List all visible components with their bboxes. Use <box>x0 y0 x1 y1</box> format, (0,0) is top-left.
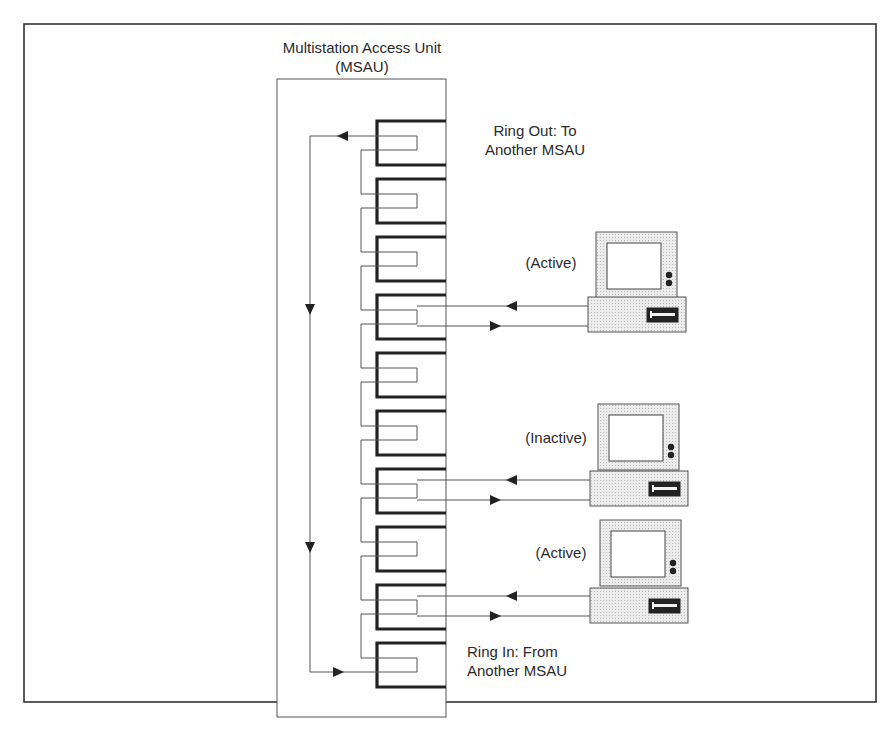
msau-title: Multistation Access Unit (MSAU) <box>262 38 462 76</box>
ring-in-line2: Another MSAU <box>467 661 607 680</box>
ring-in-label: Ring In: From Another MSAU <box>467 642 607 680</box>
ring-out-line1: Ring Out: To <box>470 121 600 140</box>
arrowhead-icon <box>490 611 501 621</box>
system-unit-icon <box>588 297 686 332</box>
workstation-1 <box>417 232 686 332</box>
station-3-status: (Active) <box>526 543 596 562</box>
system-unit-icon <box>590 588 688 623</box>
ring-out-line2: Another MSAU <box>470 140 600 159</box>
arrowhead-icon <box>506 591 517 601</box>
workstation-2 <box>417 404 688 506</box>
monitor-icon <box>598 404 679 470</box>
workstation-3 <box>417 520 688 623</box>
station-1-status: (Active) <box>516 253 586 272</box>
system-unit-icon <box>590 471 688 506</box>
arrowhead-icon <box>490 495 501 505</box>
ring-out-label: Ring Out: To Another MSAU <box>470 121 600 159</box>
monitor-icon <box>600 520 681 586</box>
msau-diagram <box>0 0 893 745</box>
arrowhead-icon <box>506 301 517 311</box>
station-2-status: (Inactive) <box>516 428 596 447</box>
msau-title-line2: (MSAU) <box>262 57 462 76</box>
arrowhead-icon <box>490 321 501 331</box>
ring-in-line1: Ring In: From <box>467 642 607 661</box>
arrowhead-icon <box>506 475 517 485</box>
figure-frame <box>24 24 876 702</box>
monitor-icon <box>596 232 677 298</box>
msau-title-line1: Multistation Access Unit <box>262 38 462 57</box>
